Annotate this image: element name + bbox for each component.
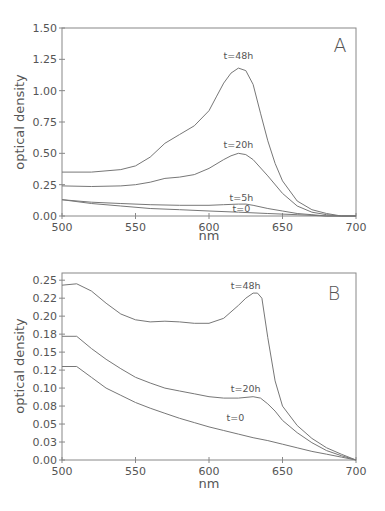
y-tick-label: 0.15 xyxy=(33,346,58,359)
panel-b-chart: 0.000.030.050.080.100.120.150.180.200.22… xyxy=(12,273,367,491)
x-tick-label: 500 xyxy=(52,221,73,234)
x-tick-label: 700 xyxy=(346,221,367,234)
plot-frame xyxy=(62,28,356,216)
curve-t48h xyxy=(62,284,356,460)
x-axis-title: nm xyxy=(199,228,220,243)
curve-t48h xyxy=(62,68,356,216)
y-tick-label: 0.25 xyxy=(33,274,58,287)
curve-t0 xyxy=(62,367,356,461)
y-tick-label: 0.12 xyxy=(33,364,58,377)
panel-letter: A xyxy=(334,34,347,56)
curve-label: t=5h xyxy=(229,192,253,203)
y-tick-label: 0.05 xyxy=(33,418,58,431)
curve-t20h xyxy=(62,336,356,460)
curve-label: t=48h xyxy=(224,50,254,61)
panel-a-chart: 0.000.250.500.751.001.251.50500550600650… xyxy=(12,22,367,243)
figure: 0.000.250.500.751.001.251.50500550600650… xyxy=(0,0,385,511)
plot-frame xyxy=(62,273,356,460)
curve-label: t=20h xyxy=(231,383,261,394)
y-tick-label: 0.25 xyxy=(33,179,58,192)
y-tick-label: 0.75 xyxy=(33,116,58,129)
y-tick-label: 1.00 xyxy=(33,85,58,98)
y-tick-label: 0.50 xyxy=(33,147,58,160)
y-tick-label: 0.03 xyxy=(33,436,58,449)
x-tick-label: 650 xyxy=(272,221,293,234)
curve-label: t=48h xyxy=(231,280,261,291)
spectra-figure: 0.000.250.500.751.001.251.50500550600650… xyxy=(0,0,385,511)
curve-label: t=0 xyxy=(227,412,245,423)
y-tick-label: 0.10 xyxy=(33,382,58,395)
y-tick-label: 0.20 xyxy=(33,310,58,323)
curve-label: t=0 xyxy=(232,203,250,214)
x-tick-label: 700 xyxy=(346,465,367,478)
y-tick-label: 1.25 xyxy=(33,53,58,66)
curve-t20h xyxy=(62,153,356,216)
y-tick-label: 0.18 xyxy=(33,328,58,341)
panel-letter: B xyxy=(328,282,340,304)
y-tick-label: 1.50 xyxy=(33,22,58,35)
y-axis-title: optical density xyxy=(12,74,27,170)
x-tick-label: 550 xyxy=(125,465,146,478)
x-tick-label: 500 xyxy=(52,465,73,478)
y-axis-title: optical density xyxy=(12,318,27,414)
x-tick-label: 550 xyxy=(125,221,146,234)
x-axis-title: nm xyxy=(199,476,220,491)
curve-label: t=20h xyxy=(224,139,254,150)
y-tick-label: 0.08 xyxy=(33,400,58,413)
y-tick-label: 0.22 xyxy=(33,292,58,305)
x-tick-label: 650 xyxy=(272,465,293,478)
